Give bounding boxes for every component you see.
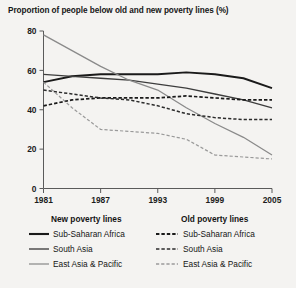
dashed-line-swatch-icon (155, 244, 179, 254)
legend-label: East Asia & Pacific (183, 259, 252, 269)
legend-column-new-poverty-lines: New poverty lines Sub-Saharan Africa Sou… (29, 205, 125, 271)
x-axis-tick-label: 2005 (263, 195, 282, 205)
y-axis-tick-label: 0 (32, 184, 37, 194)
chart-title: Proportion of people below old and new p… (8, 6, 229, 15)
plot-area: 020406080 19811987199319992005 (0, 18, 296, 205)
legend-item-new-east-asia-pacific: East Asia & Pacific (29, 256, 125, 271)
poverty-lines-chart: Proportion of people below old and new p… (0, 0, 296, 288)
legend-header-old: Old poverty lines (181, 214, 255, 224)
series-line-new-poverty-lines-south-asia (44, 74, 273, 107)
series-line-old-poverty-lines-south-asia (44, 90, 273, 120)
x-axis-tick-label: 1993 (148, 195, 167, 205)
legend-column-old-poverty-lines: Old poverty lines Sub-Saharan Africa Sou… (155, 205, 255, 271)
legend-item-old-sub-saharan-africa: Sub-Saharan Africa (155, 226, 255, 241)
axes (40, 31, 273, 193)
legend-label: South Asia (53, 244, 93, 254)
x-axis-tick-label: 1981 (34, 195, 53, 205)
series-line-old-poverty-lines-east-asia-pacific (44, 82, 273, 159)
y-axis-tick-label: 20 (27, 144, 37, 154)
solid-line-swatch-icon (29, 259, 49, 269)
series-line-new-poverty-lines-east-asia-pacific (44, 35, 273, 155)
x-axis-tick-label: 1999 (206, 195, 225, 205)
dashed-line-swatch-icon (155, 229, 179, 239)
legend-item-old-east-asia-pacific: East Asia & Pacific (155, 256, 255, 271)
legend-label: East Asia & Pacific (53, 259, 122, 269)
chart-legend: New poverty lines Sub-Saharan Africa Sou… (0, 205, 296, 288)
legend-label: South Asia (183, 244, 223, 254)
x-axis-tick-labels: 19811987199319992005 (34, 195, 281, 205)
solid-line-swatch-icon (29, 229, 49, 239)
x-axis-ticks (44, 189, 273, 194)
legend-item-new-sub-saharan-africa: Sub-Saharan Africa (29, 226, 125, 241)
y-axis-tick-label: 40 (27, 105, 37, 115)
legend-label: Sub-Saharan Africa (183, 229, 255, 239)
legend-label: Sub-Saharan Africa (53, 229, 125, 239)
dashed-line-swatch-icon (155, 259, 179, 269)
y-axis-ticks (40, 31, 44, 189)
y-axis-tick-label: 60 (27, 66, 37, 76)
data-series-group (44, 35, 273, 159)
solid-line-swatch-icon (29, 244, 49, 254)
x-axis-tick-label: 1987 (91, 195, 110, 205)
y-axis-tick-label: 80 (27, 26, 37, 36)
series-line-new-poverty-lines-sub-saharan-africa (44, 72, 273, 88)
series-line-old-poverty-lines-sub-saharan-africa (44, 96, 273, 106)
legend-item-old-south-asia: South Asia (155, 241, 255, 256)
legend-item-new-south-asia: South Asia (29, 241, 125, 256)
y-axis-tick-labels: 020406080 (27, 26, 37, 194)
legend-header-new: New poverty lines (51, 214, 125, 224)
